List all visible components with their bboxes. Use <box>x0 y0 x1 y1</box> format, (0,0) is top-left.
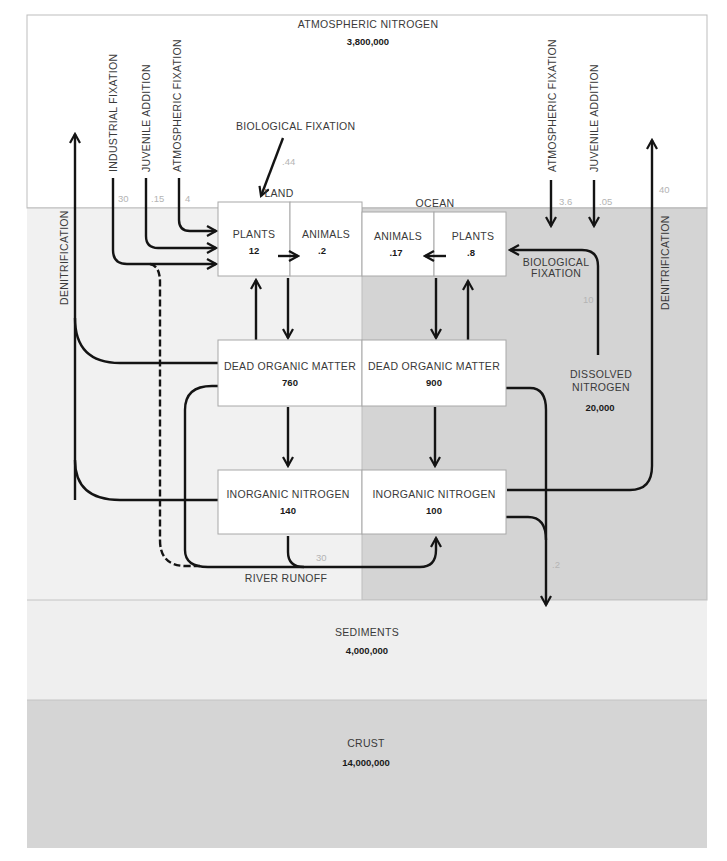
land-dead-organic-value: 760 <box>282 377 298 388</box>
ocean-dead-organic-label: DEAD ORGANIC MATTER <box>368 360 500 372</box>
sediments-value: 4,000,000 <box>346 645 388 656</box>
dissolved-nitrogen-label-1: DISSOLVED <box>570 368 632 380</box>
land-atmospheric-fixation-label: ATMOSPHERIC FIXATION <box>171 39 183 172</box>
ocean-animals-value: .17 <box>389 247 402 258</box>
land-inorganic-value: 140 <box>280 505 296 516</box>
land-animals-value: .2 <box>318 245 326 256</box>
ocean-biological-fixation-label-2: FIXATION <box>531 267 581 279</box>
river-runoff-value: 30 <box>316 552 327 563</box>
land-atmospheric-fixation-value: 4 <box>185 193 190 204</box>
ocean-plants-label: PLANTS <box>452 230 495 242</box>
river-runoff-label: RIVER RUNOFF <box>245 572 327 584</box>
ocean-atmospheric-fixation-value: 3.6 <box>559 196 572 207</box>
crust-label: CRUST <box>347 737 385 749</box>
atmosphere-value: 3,800,000 <box>347 36 389 47</box>
ocean-juvenile-addition-label: JUVENILE ADDITION <box>588 64 600 172</box>
crust-region <box>27 700 707 848</box>
crust-value: 14,000,000 <box>342 757 390 768</box>
ocean-inorganic-box <box>362 470 506 534</box>
ocean-region-label: OCEAN <box>416 197 455 209</box>
ocean-animals-box <box>362 212 434 276</box>
land-juvenile-addition-label: JUVENILE ADDITION <box>140 64 152 172</box>
land-animals-label: ANIMALS <box>302 228 350 240</box>
land-dead-organic-box <box>218 340 362 406</box>
land-juvenile-addition-value: .15 <box>151 193 164 204</box>
ocean-inorganic-label: INORGANIC NITROGEN <box>372 488 495 500</box>
land-dead-organic-label: DEAD ORGANIC MATTER <box>224 360 356 372</box>
land-industrial-fixation-value: 30 <box>118 193 129 204</box>
land-plants-label: PLANTS <box>233 228 276 240</box>
atmosphere-label: ATMOSPHERIC NITROGEN <box>298 18 439 30</box>
ocean-inorganic-value: 100 <box>426 505 442 516</box>
ocean-juvenile-addition-value: .05 <box>599 196 612 207</box>
ocean-plants-box <box>434 212 506 276</box>
land-biological-fixation-label: BIOLOGICAL FIXATION <box>236 120 355 132</box>
land-inorganic-label: INORGANIC NITROGEN <box>226 488 349 500</box>
ocean-biological-fixation-value: 10 <box>583 294 594 305</box>
ocean-plants-value: .8 <box>467 247 475 258</box>
ocean-dead-organic-value: 900 <box>426 377 442 388</box>
nitrogen-cycle-diagram: ATMOSPHERIC NITROGEN 3,800,000 INDUSTRIA… <box>0 0 727 861</box>
dissolved-nitrogen-label-2: NITROGEN <box>572 381 630 393</box>
ocean-atmospheric-fixation-label: ATMOSPHERIC FIXATION <box>546 39 558 172</box>
dissolved-nitrogen-value: 20,000 <box>585 402 614 413</box>
land-industrial-fixation-label: INDUSTRIAL FIXATION <box>107 54 119 172</box>
ocean-animals-label: ANIMALS <box>374 230 422 242</box>
ocean-denitrification-value: 40 <box>659 184 670 195</box>
land-inorganic-box <box>218 470 362 534</box>
ocean-denitrification-label: DENITRIFICATION <box>659 215 671 310</box>
land-plants-value: 12 <box>249 245 260 256</box>
land-denitrification-label: DENITRIFICATION <box>58 210 70 305</box>
ocean-to-sediments-value: .2 <box>552 559 560 570</box>
sediments-label: SEDIMENTS <box>335 626 399 638</box>
land-region-label: LAND <box>264 187 293 199</box>
land-biological-fixation-value: .44 <box>282 156 295 167</box>
ocean-dead-organic-box <box>362 340 506 406</box>
